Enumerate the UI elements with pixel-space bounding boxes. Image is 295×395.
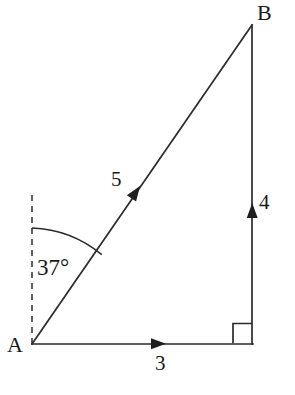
angle-arc bbox=[32, 228, 102, 255]
vertex-label-b: B bbox=[257, 2, 272, 24]
vertex-label-a: A bbox=[7, 334, 23, 356]
angle-label: 37° bbox=[37, 256, 69, 279]
side-label-vertical: 4 bbox=[259, 192, 270, 213]
triangle-diagram-svg bbox=[0, 0, 295, 395]
diagram-canvas: A B 3 4 5 37° bbox=[0, 0, 295, 395]
triangle-side-hypotenuse bbox=[32, 25, 252, 344]
base-arrowhead-icon bbox=[151, 338, 166, 349]
side-label-base: 3 bbox=[155, 353, 166, 374]
right-angle-marker-icon bbox=[233, 324, 252, 344]
side-label-hypotenuse: 5 bbox=[111, 169, 122, 190]
vertical-arrowhead-icon bbox=[247, 203, 258, 218]
